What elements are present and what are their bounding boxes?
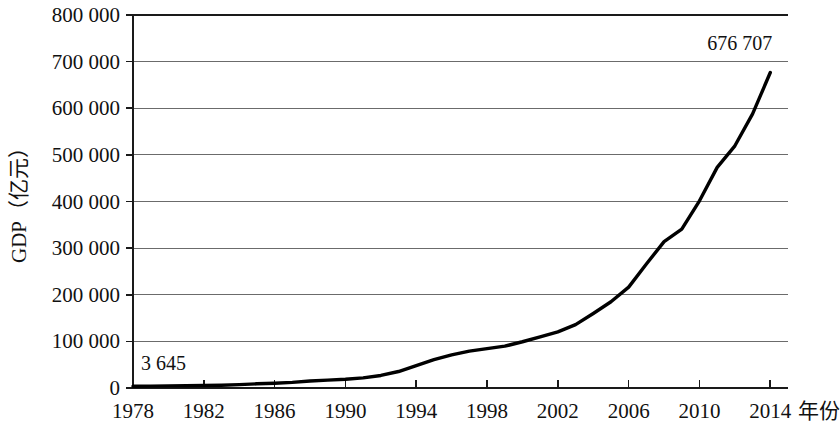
y-axis-title: GDP（亿元） (7, 137, 31, 263)
y-tick-label: 700 000 (52, 50, 120, 74)
start-value-label: 3 645 (141, 352, 186, 374)
gdp-line-chart: 0100 000200 000300 000400 000500 000600 … (0, 0, 840, 425)
x-tick-label: 1982 (183, 399, 225, 423)
y-tick-label: 200 000 (52, 283, 120, 307)
data-point-labels: 3 645676 707 (141, 32, 772, 374)
x-tick-label: 1998 (466, 399, 508, 423)
x-tick-label: 1990 (324, 399, 366, 423)
x-tick-label: 2002 (537, 399, 579, 423)
y-tick-label: 600 000 (52, 96, 120, 120)
x-tick-label: 2006 (608, 399, 650, 423)
y-tick-label: 800 000 (52, 3, 120, 27)
y-axis-tick-labels: 0100 000200 000300 000400 000500 000600 … (52, 3, 120, 400)
x-tick-label: 2010 (678, 399, 720, 423)
chart-canvas: 0100 000200 000300 000400 000500 000600 … (0, 0, 840, 425)
series-line-gdp (133, 72, 770, 386)
gridlines (133, 15, 788, 341)
x-axis-title: 年份 (798, 399, 840, 423)
end-value-label: 676 707 (707, 32, 772, 54)
y-tick-label: 500 000 (52, 143, 120, 167)
y-tick-label: 300 000 (52, 236, 120, 260)
x-tick-label: 1978 (112, 399, 154, 423)
y-tick-label: 0 (110, 376, 121, 400)
x-tick-label: 1986 (254, 399, 296, 423)
data-series (133, 72, 770, 386)
y-tick-label: 400 000 (52, 190, 120, 214)
y-tick-label: 100 000 (52, 329, 120, 353)
x-tick-label: 2014 (749, 399, 792, 423)
x-tick-label: 1994 (395, 399, 438, 423)
x-axis-tick-labels: 1978198219861990199419982002200620102014 (112, 399, 792, 423)
